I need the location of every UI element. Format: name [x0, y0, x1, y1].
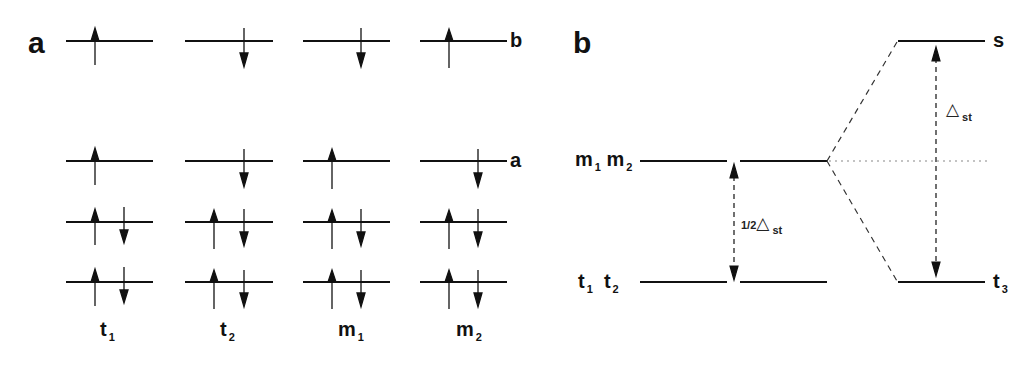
spin-down-arrow-icon	[120, 267, 128, 303]
spin-up-arrow-icon	[328, 270, 336, 309]
panel-a-spins	[91, 28, 482, 309]
spin-up-arrow-icon	[91, 269, 99, 306]
level-label-m1-m2: m1 m2	[575, 148, 632, 171]
spin-up-arrow-icon	[210, 210, 218, 249]
level-label-b: b	[510, 29, 522, 52]
spin-up-arrow-icon	[91, 28, 99, 65]
full-gap-label: △st	[946, 99, 972, 119]
column-label-m1: m1	[338, 318, 364, 341]
spin-up-arrow-icon	[328, 210, 336, 249]
spin-down-arrow-icon	[357, 209, 365, 246]
half-gap-arrow	[730, 164, 738, 280]
spin-up-arrow-icon	[328, 149, 336, 189]
spin-up-arrow-icon	[445, 210, 453, 249]
panel-a-levels	[66, 41, 507, 282]
spin-down-arrow-icon	[357, 28, 365, 67]
panel-b-levels	[640, 41, 985, 282]
column-label-t2: t2	[220, 318, 235, 341]
spin-down-arrow-icon	[357, 270, 365, 307]
panel-b-correlation-lines	[827, 42, 897, 281]
spin-down-arrow-icon	[240, 209, 248, 246]
spin-up-arrow-icon	[445, 270, 453, 309]
spin-up-arrow-icon	[210, 270, 218, 309]
level-label-s: s	[993, 29, 1004, 52]
spin-up-arrow-icon	[91, 209, 99, 245]
half-gap-label: 1/2△st	[741, 213, 782, 233]
spin-up-arrow-icon	[91, 148, 99, 185]
spin-down-arrow-icon	[474, 209, 482, 246]
spin-up-arrow-icon	[445, 29, 453, 68]
level-label-t1-t2: t1 t2	[578, 270, 619, 293]
spin-down-arrow-icon	[240, 270, 248, 307]
orbital-diagram-canvas	[0, 0, 1033, 366]
level-label-a: a	[510, 149, 521, 172]
spin-down-arrow-icon	[474, 149, 482, 187]
panel-b-label: b	[573, 26, 591, 60]
spin-down-arrow-icon	[474, 270, 482, 307]
panel-a-label: a	[28, 26, 45, 60]
spin-down-arrow-icon	[240, 28, 248, 67]
column-label-m2: m2	[456, 318, 482, 341]
spin-down-arrow-icon	[120, 207, 128, 243]
spin-down-arrow-icon	[240, 149, 248, 187]
level-label-t3: t3	[993, 270, 1008, 293]
column-label-t1: t1	[100, 318, 115, 341]
